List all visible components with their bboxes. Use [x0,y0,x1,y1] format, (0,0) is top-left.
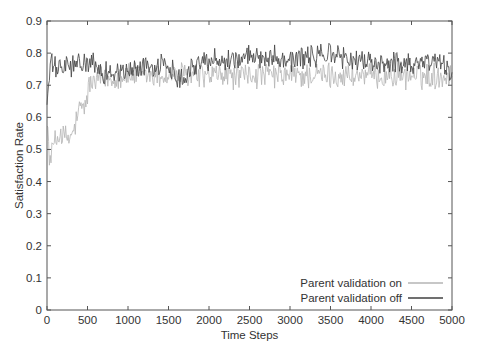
plot-frame [47,21,452,310]
y-tick-label: 0.9 [26,15,42,27]
x-tick-label: 2500 [237,314,263,326]
y-tick-label: 0.4 [26,176,43,188]
x-tick-label: 1000 [115,314,141,326]
x-tick-label: 500 [78,314,97,326]
legend-label-on: Parent validation on [300,277,402,289]
x-tick-label: 4500 [399,314,425,326]
x-tick-label: 0 [44,314,50,326]
x-tick-label: 1500 [156,314,182,326]
y-axis-label: Satisfaction Rate [13,122,25,209]
x-tick-label: 5000 [439,314,465,326]
x-tick-label: 2000 [196,314,222,326]
y-tick-label: 0.3 [26,208,42,220]
legend: Parent validation on Parent validation o… [300,277,443,304]
x-axis-label: Time Steps [221,329,279,341]
y-tick-label: 0.1 [26,272,42,284]
x-tick-label: 3500 [318,314,344,326]
y-tick-label: 0.2 [26,240,42,252]
legend-label-off: Parent validation off [301,292,403,304]
y-tick-label: 0.7 [26,79,42,91]
x-tick-label: 4000 [358,314,384,326]
line-chart: 0500100015002000250030003500400045005000… [0,0,478,354]
y-tick-label: 0.5 [26,143,42,155]
series-layer [47,43,452,165]
y-tick-label: 0 [36,304,42,316]
y-tick-label: 0.6 [26,111,42,123]
x-tick-label: 3000 [277,314,303,326]
y-tick-label: 0.8 [26,47,42,59]
